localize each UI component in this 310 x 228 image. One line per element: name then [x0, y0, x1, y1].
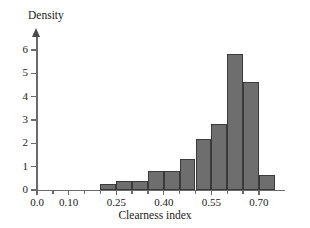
histogram-bar [211, 124, 227, 190]
y-tick-label: 4 [0, 91, 28, 102]
histogram-bar [132, 181, 148, 190]
histogram-bar [100, 184, 116, 190]
y-axis-title: Density [28, 9, 64, 22]
y-tick-mark [31, 49, 37, 50]
y-tick-mark [31, 143, 37, 144]
y-tick-label: 5 [0, 67, 28, 78]
histogram-bar [243, 82, 259, 190]
x-tick-mark [68, 190, 69, 196]
plot-area: 0123456 0.00.100.250.400.550.70 Density … [0, 0, 310, 228]
x-tick-mark [211, 190, 212, 196]
x-tick-mark [116, 190, 117, 196]
y-tick-mark [31, 96, 37, 97]
histogram-bar [148, 171, 164, 190]
histogram-bar [259, 175, 275, 190]
y-tick-label: 1 [0, 161, 28, 172]
x-tick-mark [258, 190, 259, 196]
y-tick-mark [31, 119, 37, 120]
x-minor-tick-mark [147, 190, 148, 194]
y-tick-mark [31, 166, 37, 167]
x-minor-tick-mark [100, 190, 101, 194]
y-tick-label: 0 [0, 184, 28, 195]
y-axis-line [36, 36, 38, 191]
histogram-bar [227, 54, 243, 190]
y-axis-arrow-icon [32, 28, 40, 37]
x-tick-label: 0.55 [189, 196, 233, 208]
x-minor-tick-mark [179, 190, 180, 194]
x-tick-label: 0.40 [142, 196, 186, 208]
x-minor-tick-mark [84, 190, 85, 194]
x-axis-title: Clearness index [0, 209, 310, 222]
x-minor-tick-mark [242, 190, 243, 194]
x-tick-mark [163, 190, 164, 196]
histogram-bar [196, 139, 212, 190]
y-tick-label: 3 [0, 114, 28, 125]
x-minor-tick-mark [131, 190, 132, 194]
histogram-bar [116, 181, 132, 190]
histogram-figure: 0123456 0.00.100.250.400.550.70 Density … [0, 0, 310, 228]
x-tick-label: 0.25 [94, 196, 138, 208]
x-tick-mark [36, 190, 37, 196]
x-minor-tick-mark [195, 190, 196, 194]
y-tick-mark [31, 73, 37, 74]
x-tick-label: 0.10 [47, 196, 91, 208]
histogram-bar [164, 171, 180, 190]
x-minor-tick-mark [227, 190, 228, 194]
histogram-bar [180, 159, 196, 190]
x-tick-label: 0.70 [237, 196, 281, 208]
y-tick-label: 2 [0, 137, 28, 148]
y-tick-label: 6 [0, 44, 28, 55]
x-minor-tick-mark [52, 190, 53, 194]
